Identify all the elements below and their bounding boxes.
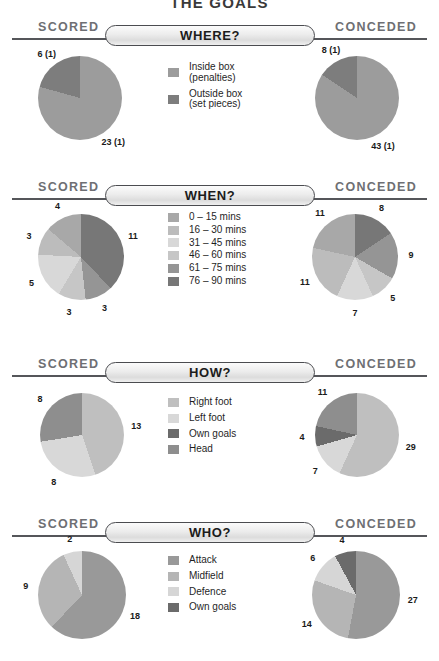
conceded-how-slice-label: 4 [300, 432, 305, 441]
section-banner-who: WHO? [105, 522, 315, 543]
legend-item: Head [168, 444, 236, 455]
scored-when-slice-label: 3 [66, 307, 71, 316]
section-who: SCOREDCONCEDEDWHO?1892271464AttackMidfie… [0, 515, 439, 661]
conceded-chart-who: 271464 [312, 551, 400, 639]
scored-label: SCORED [38, 180, 99, 194]
legend-swatch-icon [168, 264, 179, 273]
legend-item-label: 31 – 45 mins [189, 238, 246, 249]
conceded-how-pie: 297411 [315, 393, 399, 477]
conceded-chart-where: 43 (1)8 (1) [315, 56, 399, 140]
legend-item-label: Left foot [189, 413, 225, 424]
scored-label: SCORED [38, 20, 99, 34]
conceded-where-pie: 43 (1)8 (1) [315, 56, 399, 140]
legend-item-label: Defence [189, 587, 226, 598]
scored-where-slice-label: 6 (1) [37, 50, 56, 59]
legend-swatch-icon [168, 68, 179, 77]
legend-item-label: 61 – 75 mins [189, 263, 246, 274]
scored-chart-where: 23 (1)6 (1) [38, 56, 122, 140]
scored-when-slice-label: 11 [128, 232, 138, 241]
conceded-who-pie: 271464 [312, 551, 400, 639]
legend-item-label: Outside box (set pieces) [189, 89, 242, 111]
legend-swatch-icon [168, 445, 179, 454]
legend-swatch-icon [168, 277, 179, 286]
legend-where: Inside box (penalties)Outside box (set p… [168, 62, 242, 115]
legend-item: Outside box (set pieces) [168, 89, 242, 111]
legend-when: 0 – 15 mins16 – 30 mins31 – 45 mins46 – … [168, 212, 246, 289]
conceded-who-slice-label: 27 [408, 596, 418, 605]
conceded-chart-when: 89571111 [312, 214, 398, 300]
conceded-label: CONCEDED [335, 180, 417, 194]
legend-item: 31 – 45 mins [168, 238, 246, 249]
section-header-band: SCOREDCONCEDEDWHERE? [0, 18, 439, 48]
scored-how-slice-label: 8 [38, 395, 43, 404]
legend-item: 16 – 30 mins [168, 225, 246, 236]
conceded-who-slice-label: 6 [310, 553, 315, 562]
legend-item: Midfield [168, 571, 236, 582]
conceded-who-slice-label: 14 [302, 619, 312, 628]
section-header-band: SCOREDCONCEDEDWHO? [0, 515, 439, 545]
legend-item: Own goals [168, 602, 236, 613]
legend-swatch-icon [168, 556, 179, 565]
legend-swatch-icon [168, 251, 179, 260]
conceded-when-slice-label: 8 [379, 203, 384, 212]
legend-how: Right footLeft footOwn goalsHead [168, 397, 236, 460]
legend-swatch-icon [168, 603, 179, 612]
conceded-when-slice-label: 5 [390, 294, 395, 303]
legend-item-label: 16 – 30 mins [189, 225, 246, 236]
scored-label: SCORED [38, 517, 99, 531]
section-where: SCOREDCONCEDEDWHERE?23 (1)6 (1)43 (1)8 (… [0, 18, 439, 178]
scored-chart-when: 1133534 [38, 214, 124, 300]
conceded-when-slice-label: 11 [300, 277, 310, 286]
conceded-how-slice-label: 11 [318, 388, 328, 397]
conceded-how-slice-label: 29 [406, 442, 416, 451]
legend-item: 0 – 15 mins [168, 212, 246, 223]
scored-chart-how: 1388 [40, 393, 124, 477]
section-how: SCOREDCONCEDEDHOW?1388297411Right footLe… [0, 355, 439, 515]
section-when: SCOREDCONCEDEDWHEN?1133534895711110 – 15… [0, 178, 439, 338]
scored-when-slice-label: 3 [26, 232, 31, 241]
legend-item-label: Own goals [189, 429, 236, 440]
legend-item-label: 46 – 60 mins [189, 250, 246, 261]
conceded-label: CONCEDED [335, 357, 417, 371]
legend-swatch-icon [168, 226, 179, 235]
conceded-when-pie: 89571111 [312, 214, 398, 300]
scored-chart-who: 1892 [38, 551, 126, 639]
legend-item: Right foot [168, 397, 236, 408]
scored-who-slice-label: 18 [130, 612, 140, 621]
conceded-when-slice-label: 7 [352, 309, 357, 318]
legend-item-label: Midfield [189, 571, 223, 582]
page-title: THE GOALS [0, 0, 439, 8]
legend-item-label: Head [189, 444, 213, 455]
scored-when-slice-label: 5 [29, 279, 34, 288]
legend-item: Defence [168, 587, 236, 598]
legend-item-label: Inside box (penalties) [189, 62, 236, 84]
section-banner-text: WHERE? [180, 29, 240, 42]
legend-item: Left foot [168, 413, 236, 424]
scored-where-pie: 23 (1)6 (1) [38, 56, 122, 140]
legend-item-label: 76 – 90 mins [189, 276, 246, 287]
legend-swatch-icon [168, 213, 179, 222]
legend-swatch-icon [168, 238, 179, 247]
legend-item: 76 – 90 mins [168, 276, 246, 287]
conceded-label: CONCEDED [335, 517, 417, 531]
scored-how-slice-label: 8 [51, 478, 56, 487]
legend-swatch-icon [168, 414, 179, 423]
legend-item-label: Attack [189, 555, 217, 566]
legend-item: Attack [168, 555, 236, 566]
legend-item: Inside box (penalties) [168, 62, 242, 84]
legend-swatch-icon [168, 587, 179, 596]
legend-item: Own goals [168, 429, 236, 440]
conceded-when-slice-label: 11 [315, 209, 325, 218]
section-banner-text: HOW? [189, 366, 231, 379]
conceded-when-slice-label: 9 [408, 251, 413, 260]
conceded-where-slice-label: 8 (1) [322, 45, 341, 54]
legend-item-label: Right foot [189, 397, 232, 408]
legend-swatch-icon [168, 572, 179, 581]
scored-how-slice-label: 13 [131, 422, 141, 431]
scored-how-pie: 1388 [40, 393, 124, 477]
conceded-where-slice-label: 43 (1) [371, 142, 395, 151]
legend-item-label: Own goals [189, 602, 236, 613]
legend-swatch-icon [168, 398, 179, 407]
scored-when-slice-label: 3 [102, 303, 107, 312]
conceded-who-slice-label: 4 [340, 535, 345, 544]
